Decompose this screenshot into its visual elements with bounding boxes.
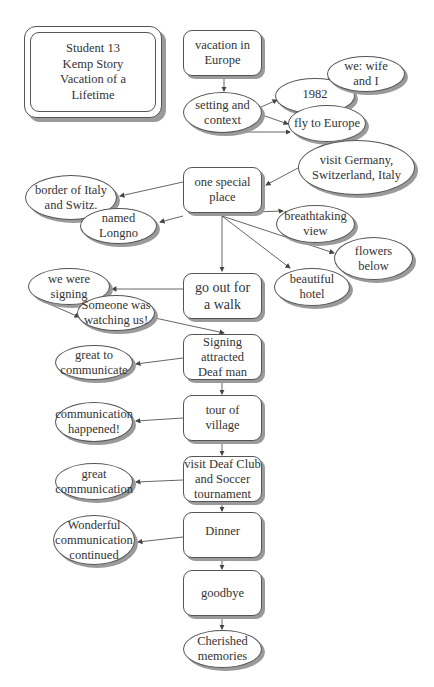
node-dinner[interactable]: Dinner: [183, 512, 262, 558]
node-great-to-communicate[interactable]: great to communicate: [55, 345, 133, 380]
node-label: fly to Europe: [294, 116, 360, 131]
node-signing-attracted-deaf-man[interactable]: Signing attracted Deaf man: [183, 334, 262, 380]
node-label: we were signing: [48, 272, 90, 302]
node-breathtaking-view[interactable]: breathtaking view: [276, 205, 355, 243]
node-label: vacation in Europe: [195, 38, 250, 68]
node-label: goodbye: [201, 586, 244, 601]
title-text: Student 13 Kemp Story Vacation of a Life…: [60, 41, 126, 103]
node-label: 1982: [303, 87, 328, 102]
node-label: we: wife and I: [344, 59, 387, 89]
node-great-communication[interactable]: great communication: [55, 463, 133, 500]
node-label: one special place: [195, 175, 251, 205]
node-label: border of Italy and Switz.: [35, 183, 107, 213]
node-one-special-place[interactable]: one special place: [183, 167, 262, 213]
node-label: flowers below: [355, 244, 393, 274]
node-label: named Longno: [99, 211, 138, 241]
node-someone-was-watching-us[interactable]: Someone was watching us!: [77, 295, 155, 331]
title-card-inner: Student 13 Kemp Story Vacation of a Life…: [30, 32, 156, 112]
node-label: breathtaking view: [284, 209, 346, 239]
node-tour-of-village[interactable]: tour of village: [183, 395, 262, 441]
node-label: beautiful hotel: [290, 272, 334, 302]
node-label: Wonderful communication continued: [55, 518, 133, 563]
node-communication-happened[interactable]: communication happened!: [55, 402, 133, 442]
node-label: great communication: [55, 467, 133, 497]
node-visit-deaf-club[interactable]: visit Deaf Club and Soccer tournament: [183, 456, 262, 502]
node-vacation-in-europe[interactable]: vacation in Europe: [183, 30, 262, 76]
node-named-longno[interactable]: named Longno: [80, 208, 157, 244]
node-wonderful-communication-continued[interactable]: Wonderful communication continued: [53, 515, 135, 565]
node-we-wife-and-i[interactable]: we: wife and I: [327, 56, 405, 92]
node-label: Cherished memories: [197, 634, 248, 664]
node-goodbye[interactable]: goodbye: [183, 570, 262, 616]
node-flowers-below[interactable]: flowers below: [334, 237, 413, 280]
node-label: Signing attracted Deaf man: [198, 335, 247, 380]
node-label: communication happened!: [55, 407, 133, 437]
node-label: go out for a walk: [195, 279, 250, 313]
node-label: Dinner: [205, 524, 240, 539]
node-label: visit Germany, Switzerland, Italy: [312, 153, 401, 183]
node-visit-germany-switzerland-italy[interactable]: visit Germany, Switzerland, Italy: [298, 140, 415, 195]
node-label: setting and context: [195, 98, 250, 128]
node-label: Someone was watching us!: [81, 298, 150, 328]
node-beautiful-hotel[interactable]: beautiful hotel: [274, 268, 350, 306]
node-fly-to-europe[interactable]: fly to Europe: [288, 105, 366, 142]
node-label: great to communicate: [60, 348, 127, 378]
node-go-out-for-a-walk[interactable]: go out for a walk: [183, 273, 262, 319]
node-setting-and-context[interactable]: setting and context: [183, 92, 262, 133]
node-cherished-memories[interactable]: Cherished memories: [183, 630, 262, 668]
concept-map: Student 13 Kemp Story Vacation of a Life…: [0, 0, 434, 687]
node-label: tour of village: [205, 403, 239, 433]
node-label: visit Deaf Club and Soccer tournament: [184, 457, 260, 502]
